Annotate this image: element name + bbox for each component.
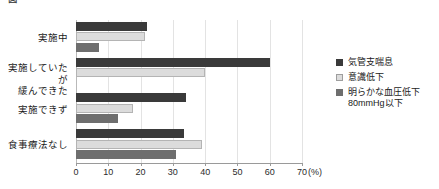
legend-item-1[interactable]: 意識低下 bbox=[336, 72, 420, 83]
bar-g3-s1 bbox=[76, 140, 202, 149]
x-tick-label-0: 0 bbox=[73, 167, 78, 177]
bar-g0-s1 bbox=[76, 32, 145, 41]
cutoff-title-strip: 図 bbox=[0, 0, 439, 9]
x-tick-label-60: 60 bbox=[265, 167, 275, 177]
x-axis-unit-label: (%) bbox=[308, 167, 322, 177]
y-category-label-1: 実施していたが 緩んできた bbox=[0, 62, 68, 97]
gridline-70 bbox=[302, 20, 303, 163]
bar-g2-s2 bbox=[76, 114, 118, 123]
gridline-60 bbox=[270, 20, 271, 163]
x-tick-50 bbox=[237, 163, 238, 166]
x-tick-label-30: 30 bbox=[168, 167, 178, 177]
bar-g0-s2 bbox=[76, 43, 99, 52]
gridline-50 bbox=[237, 20, 238, 163]
bar-g1-s0 bbox=[76, 58, 270, 67]
x-tick-label-50: 50 bbox=[232, 167, 242, 177]
x-tick-20 bbox=[141, 163, 142, 166]
y-category-label-3: 食事療法なし bbox=[8, 139, 68, 151]
y-category-label-2: 実施できず bbox=[18, 104, 68, 116]
bar-g2-s1 bbox=[76, 104, 133, 113]
x-tick-60 bbox=[270, 163, 271, 166]
x-tick-0 bbox=[76, 163, 77, 166]
x-tick-40 bbox=[205, 163, 206, 166]
legend-label-1: 意識低下 bbox=[348, 72, 384, 83]
bar-g2-s0 bbox=[76, 93, 186, 102]
legend-label-2: 明らかな血圧低下 80mmHg以下 bbox=[348, 87, 420, 109]
legend-label-0: 気管支喘息 bbox=[348, 57, 393, 68]
bar-g3-s2 bbox=[76, 150, 176, 159]
legend-swatch-icon-1 bbox=[336, 74, 343, 81]
bar-g0-s0 bbox=[76, 22, 147, 31]
bar-g1-s1 bbox=[76, 68, 205, 77]
x-tick-label-10: 10 bbox=[103, 167, 113, 177]
legend-swatch-icon-0 bbox=[336, 59, 343, 66]
x-tick-label-40: 40 bbox=[200, 167, 210, 177]
gridline-40 bbox=[205, 20, 206, 163]
x-tick-10 bbox=[108, 163, 109, 166]
x-tick-label-20: 20 bbox=[136, 167, 146, 177]
chart-root: 図 010203040506070 (%) 実施中実施していたが 緩んできた実施… bbox=[0, 0, 439, 189]
legend-item-0[interactable]: 気管支喘息 bbox=[336, 57, 420, 68]
y-category-label-0: 実施中 bbox=[38, 32, 68, 44]
x-tick-label-70: 70 bbox=[297, 167, 307, 177]
bar-g3-s0 bbox=[76, 129, 184, 138]
x-tick-30 bbox=[173, 163, 174, 166]
legend: 気管支喘息意識低下明らかな血圧低下 80mmHg以下 bbox=[336, 57, 420, 113]
cutoff-title-text: 図 bbox=[8, 0, 283, 5]
legend-item-2[interactable]: 明らかな血圧低下 80mmHg以下 bbox=[336, 87, 420, 109]
x-tick-70 bbox=[302, 163, 303, 166]
legend-swatch-icon-2 bbox=[336, 89, 343, 96]
